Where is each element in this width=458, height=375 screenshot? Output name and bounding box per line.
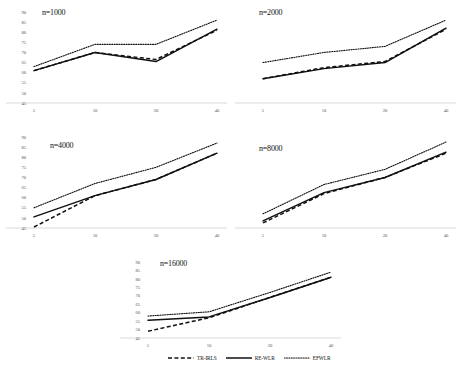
panel-plot-n2000: 5102040 [229,0,458,125]
panel-title-n4000: n=4000 [50,141,73,150]
svg-text:90: 90 [21,10,26,15]
svg-text:80: 80 [135,277,140,282]
legend-item-efwlr: EFWLR [284,355,331,361]
svg-text:45: 45 [21,226,26,231]
svg-text:60: 60 [21,70,26,75]
svg-text:60: 60 [21,195,26,200]
svg-text:45: 45 [21,101,26,106]
svg-text:10: 10 [93,233,98,238]
svg-text:75: 75 [21,40,26,45]
svg-text:45: 45 [135,336,140,341]
svg-text:10: 10 [207,343,212,348]
svg-text:65: 65 [21,185,26,190]
svg-text:85: 85 [135,268,140,273]
svg-text:85: 85 [21,20,26,25]
panel-title-n2000: n=2000 [259,8,282,17]
svg-text:10: 10 [322,108,327,113]
chart-legend: TR-IRLS RE-WLR EFWLR [168,355,331,361]
legend-swatch-dashed [168,356,194,360]
svg-text:90: 90 [21,135,26,140]
svg-text:90: 90 [135,260,140,265]
legend-label-efwlr: EFWLR [313,355,331,361]
svg-text:55: 55 [135,319,140,324]
panel-plot-n1000: 908580757065605550455102040 [0,0,229,125]
panel-title-n8000: n=8000 [259,144,282,153]
panel-n1000: n=1000 908580757065605550455102040 [0,0,229,125]
svg-text:5: 5 [33,233,36,238]
svg-text:60: 60 [135,310,140,315]
svg-text:20: 20 [383,108,388,113]
svg-text:40: 40 [215,108,220,113]
svg-text:65: 65 [135,302,140,307]
svg-text:50: 50 [135,327,140,332]
legend-swatch-dotted [284,356,310,360]
multi-panel-line-chart-figure: n=1000 908580757065605550455102040 n=200… [0,0,458,375]
svg-text:5: 5 [262,233,265,238]
svg-text:20: 20 [383,233,388,238]
svg-text:50: 50 [21,91,26,96]
legend-item-tr-irls: TR-IRLS [168,355,217,361]
panel-n8000: n=8000 5102040 [229,125,458,250]
legend-label-re-wlr: RE-WLR [255,355,275,361]
svg-text:5: 5 [262,108,265,113]
svg-text:70: 70 [21,50,26,55]
svg-text:20: 20 [154,108,159,113]
svg-text:50: 50 [21,216,26,221]
svg-text:80: 80 [21,30,26,35]
panel-title-n1000: n=1000 [42,8,65,17]
svg-text:40: 40 [444,108,449,113]
panel-title-n16000: n=16000 [160,259,187,268]
svg-text:85: 85 [21,145,26,150]
svg-text:65: 65 [21,60,26,65]
svg-text:40: 40 [329,343,334,348]
svg-text:80: 80 [21,155,26,160]
panel-n2000: n=2000 5102040 [229,0,458,125]
svg-text:70: 70 [21,175,26,180]
svg-text:70: 70 [135,293,140,298]
svg-text:75: 75 [21,165,26,170]
svg-text:55: 55 [21,205,26,210]
panel-plot-n16000: 908580757065605550455102040 [114,250,343,360]
legend-item-re-wlr: RE-WLR [226,355,275,361]
svg-text:10: 10 [322,233,327,238]
svg-text:20: 20 [268,343,273,348]
svg-text:10: 10 [93,108,98,113]
legend-label-tr-irls: TR-IRLS [197,355,217,361]
svg-text:40: 40 [215,233,220,238]
panel-n16000: n=16000 908580757065605550455102040 [114,250,343,360]
svg-text:40: 40 [444,233,449,238]
svg-text:5: 5 [147,343,150,348]
panel-n4000: n=4000 908580757065605550455102040 [0,125,229,250]
svg-text:20: 20 [154,233,159,238]
legend-swatch-solid [226,356,252,360]
svg-text:55: 55 [21,80,26,85]
svg-text:5: 5 [33,108,36,113]
svg-text:75: 75 [135,285,140,290]
panel-plot-n4000: 908580757065605550455102040 [0,125,229,250]
